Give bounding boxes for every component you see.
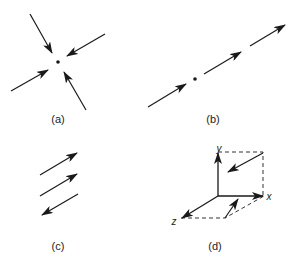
arrow-a3 bbox=[11, 70, 48, 91]
vector-xz-plane bbox=[225, 199, 238, 218]
y-axis-label: y bbox=[217, 143, 222, 154]
x-axis-label: x bbox=[267, 191, 272, 202]
arrow-a2 bbox=[67, 34, 105, 56]
arrow-a4 bbox=[64, 72, 86, 110]
arrow-c3-reversed bbox=[42, 194, 78, 215]
arrow-b3 bbox=[250, 25, 285, 46]
z-axis bbox=[182, 196, 218, 218]
center-point bbox=[193, 77, 197, 81]
panel-label-a: (a) bbox=[51, 113, 64, 125]
panel-c bbox=[40, 153, 78, 215]
panel-label-c: (c) bbox=[52, 240, 65, 252]
panel-label-b: (b) bbox=[206, 113, 219, 125]
z-axis-label: z bbox=[172, 216, 177, 227]
arrow-b1 bbox=[148, 84, 186, 107]
panel-a bbox=[11, 14, 105, 110]
arrow-c2 bbox=[40, 174, 77, 196]
panel-d bbox=[181, 152, 264, 218]
arrow-a1 bbox=[30, 14, 52, 53]
panel-b bbox=[148, 25, 285, 107]
arrow-c1 bbox=[40, 153, 77, 175]
panel-label-d: (d) bbox=[208, 240, 221, 252]
vector-xy-plane bbox=[228, 153, 263, 172]
arrow-b2 bbox=[204, 52, 241, 74]
diagram-canvas bbox=[0, 0, 290, 264]
dashed-xy-rect bbox=[218, 152, 263, 196]
center-point bbox=[56, 60, 60, 64]
dashed-xz-parallelogram bbox=[181, 196, 264, 218]
